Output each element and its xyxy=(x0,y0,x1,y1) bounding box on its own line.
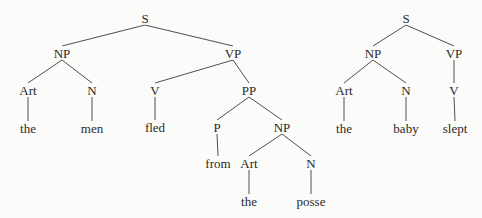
tree-node-vp: VP xyxy=(445,47,464,60)
tree-node-w-baby: baby xyxy=(392,122,419,135)
tree-edge xyxy=(145,25,233,46)
tree-node-n: N xyxy=(400,84,411,97)
tree-node-vp1: VP xyxy=(224,47,243,60)
tree-node-np1: NP xyxy=(53,47,72,60)
tree-edge xyxy=(282,134,311,156)
tree-node-n1: N xyxy=(86,84,97,97)
tree-edge xyxy=(217,97,249,120)
tree-edge xyxy=(249,97,282,120)
tree-edge xyxy=(28,60,62,83)
tree-node-v1: V xyxy=(149,84,160,97)
tree-node-w-the2: the xyxy=(240,195,258,208)
tree-node-n2: N xyxy=(305,157,316,170)
tree-edge xyxy=(155,60,233,83)
tree-edge xyxy=(344,60,373,83)
tree-edge xyxy=(249,134,282,156)
tree-node-v: V xyxy=(448,84,459,97)
tree-node-art2: Art xyxy=(239,157,258,170)
tree-node-w-men: men xyxy=(80,122,104,135)
tree-node-pp1: PP xyxy=(241,84,257,97)
tree-node-w-slept: slept xyxy=(442,122,469,135)
tree-edge xyxy=(373,25,406,46)
tree-node-w-the1: the xyxy=(19,122,37,135)
tree-edges xyxy=(0,0,482,218)
tree-node-w-fled: fled xyxy=(144,121,166,134)
tree-node-art1: Art xyxy=(18,84,37,97)
tree-edge xyxy=(406,25,454,46)
tree-node-art: Art xyxy=(334,84,353,97)
tree-node-s: S xyxy=(401,12,410,25)
tree-edge xyxy=(373,60,406,83)
tree-edge xyxy=(233,60,249,83)
tree-node-w-posse: posse xyxy=(296,195,327,208)
tree-node-s: S xyxy=(140,12,149,25)
tree-node-np2: NP xyxy=(273,121,292,134)
tree-node-p1: P xyxy=(212,121,221,134)
tree-edge xyxy=(217,134,218,156)
tree-node-np: NP xyxy=(364,47,383,60)
syntax-tree-diagram: SNPVPArtNVPPthemenfledPNPfromArtNtheposs… xyxy=(0,0,482,218)
tree-node-w-the: the xyxy=(335,122,353,135)
tree-node-w-from: from xyxy=(204,157,231,170)
tree-edge xyxy=(454,97,455,121)
tree-edge xyxy=(62,60,92,83)
tree-edge xyxy=(62,25,145,46)
